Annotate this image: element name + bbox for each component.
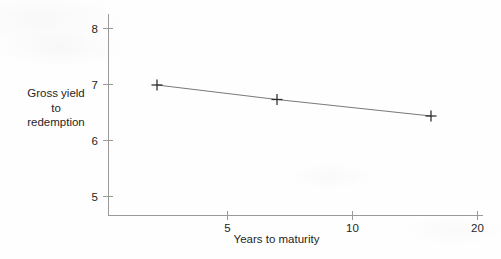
- x-axis-title: Years to maturity: [0, 232, 501, 247]
- y-axis-title-line-1: Gross yield: [8, 86, 104, 101]
- series-line-gross-yield: [157, 85, 431, 116]
- y-tick-label-5: 5: [92, 191, 98, 203]
- y-axis-title: Gross yield to redemption: [8, 86, 104, 130]
- y-tick-label-8: 8: [92, 23, 98, 35]
- chart-figure: 8 7 6 5 5 10 20 Gross yield to redemptio…: [0, 0, 501, 259]
- y-axis-title-line-3: redemption: [8, 115, 104, 130]
- data-point-marker-2: [272, 94, 283, 105]
- y-axis-title-line-2: to: [8, 101, 104, 116]
- y-tick-label-6: 6: [92, 135, 98, 147]
- data-point-marker-1: [152, 80, 163, 91]
- chart-plot-area: 8 7 6 5 5 10 20: [0, 0, 501, 259]
- data-point-marker-3: [426, 111, 437, 122]
